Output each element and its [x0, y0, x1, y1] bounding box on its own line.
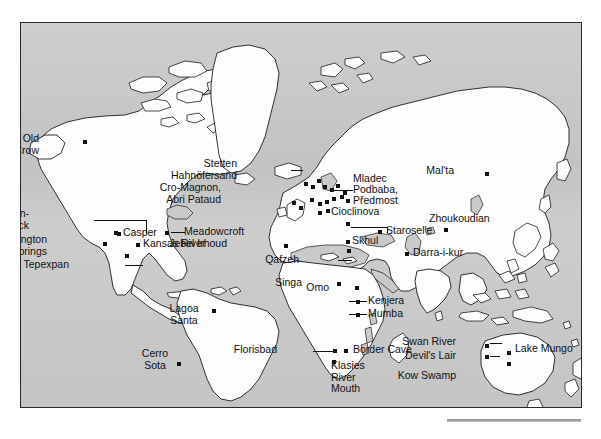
leader-line-4	[171, 232, 185, 233]
site-label-maltà: Mal'ta	[426, 165, 454, 177]
cluster-dot-11	[332, 197, 336, 201]
site-dot-border-cave	[344, 349, 348, 353]
cluster-dot-12	[318, 211, 322, 215]
site-label-cerro-sota: Cerro Sota	[142, 348, 168, 371]
site-label-lagoa-santa: Lagoa Santa	[169, 303, 198, 326]
leader-line-7	[351, 227, 387, 228]
site-dot-casper	[117, 232, 121, 236]
site-label-qafzeh: Qafzeh	[265, 254, 299, 266]
site-label-darra-i-kur: Darra-i-kur	[413, 247, 463, 259]
site-dot-old-crow	[83, 140, 87, 144]
site-dot-kow-swamp	[507, 362, 511, 366]
site-label-singa: Singa	[275, 277, 302, 289]
leader-line-6	[332, 190, 353, 191]
site-label-kow-swamp: Kow Swamp	[398, 370, 456, 382]
site-dot-zhoukoudian	[444, 228, 448, 232]
land-outline-layer	[21, 23, 581, 407]
site-label-old-crow: Old Crow	[20, 133, 39, 156]
cluster-dot-3	[323, 185, 327, 189]
figure-root: Old CrowOlsen- ChubbuckArlington Springs…	[0, 0, 601, 439]
site-label-meadowcroft: Meadowcroft	[184, 226, 244, 238]
cluster-dot-0	[304, 182, 308, 186]
cluster-dot-8	[310, 198, 314, 202]
cluster-dot-13	[326, 209, 330, 213]
cluster-dot-19	[346, 240, 350, 244]
site-dot-kansas-river	[136, 243, 140, 247]
cluster-dot-2	[317, 179, 321, 183]
site-label-lake-mungo: Lake Mungo	[515, 343, 573, 355]
cluster-dot-5	[336, 184, 340, 188]
site-dot-lake-mungo	[507, 351, 511, 355]
leader-line-14	[490, 356, 500, 357]
site-label-arlington-springs: Arlington Springs	[20, 234, 47, 257]
bottom-rule	[447, 419, 581, 422]
site-label-stetten: Stetten Hahnöfersand	[171, 158, 237, 181]
cluster-dot-9	[318, 202, 322, 206]
site-dot-lagoa-santa	[212, 309, 216, 313]
site-label-devils-lair: Devil's Lair	[405, 350, 456, 362]
site-label-tepexpan: Tepexpan	[23, 259, 69, 271]
site-label-skhul: Skhul	[352, 235, 378, 247]
site-dot-devils-lair	[485, 355, 489, 359]
cluster-dot-7	[299, 206, 303, 210]
site-label-jebel-irhoud: Jebel Irhoud	[169, 238, 227, 250]
cluster-dot-10	[325, 200, 329, 204]
site-dot-darra-i-kur	[405, 252, 409, 256]
site-dot-swan-river	[485, 344, 489, 348]
leader-line-3	[125, 265, 143, 266]
site-dot-arlington-springs	[103, 242, 107, 246]
site-dot-tepexpan	[125, 254, 129, 258]
cluster-dot-20	[347, 249, 351, 253]
site-dot-omo	[355, 286, 359, 290]
site-label-mumba: Mumba	[368, 308, 403, 320]
site-label-olsen-chubbuck: Olsen- Chubbuck	[20, 208, 29, 231]
cluster-dot-6	[292, 201, 296, 205]
leader-line-0	[94, 220, 146, 221]
site-label-swan-river: Swan River	[402, 336, 456, 348]
cluster-dot-18	[378, 230, 382, 234]
leader-line-12	[313, 351, 335, 352]
site-label-klasies: Klasies River Mouth	[331, 360, 365, 395]
site-label-staroselie: Starosel'e	[386, 225, 432, 237]
cluster-dot-16	[346, 199, 350, 203]
site-dot-cerro-sota	[177, 362, 181, 366]
cluster-dot-1	[311, 185, 315, 189]
cluster-dot-15	[343, 191, 347, 195]
site-label-zhoukoudian: Zhoukoudian	[429, 213, 490, 225]
leader-line-9	[338, 260, 352, 261]
cluster-dot-14	[340, 195, 344, 199]
world-map-frame: Old CrowOlsen- ChubbuckArlington Springs…	[20, 22, 582, 408]
cluster-dot-17	[346, 222, 350, 226]
site-dot-singa	[337, 282, 341, 286]
site-dot-jebel-irhoud	[284, 244, 288, 248]
site-label-cioclinova: Cioclinova	[331, 206, 379, 218]
site-label-omo: Omo	[306, 282, 329, 294]
site-dot-maltà	[485, 172, 489, 176]
site-label-kenjera: Kenjera	[368, 295, 404, 307]
site-label-cro-magnon: Cro-Magnon, Abri Pataud	[160, 182, 221, 205]
leader-line-13	[490, 343, 502, 344]
leader-line-11	[349, 314, 367, 315]
leader-line-10	[349, 301, 367, 302]
site-label-florisbad: Florisbad	[234, 344, 277, 356]
site-dot-meadowcroft	[165, 231, 169, 235]
leader-line-5	[291, 170, 303, 171]
